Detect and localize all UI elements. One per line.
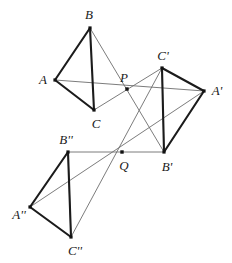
label-Cpp: C'': [68, 244, 82, 257]
point-marker-App: [28, 205, 31, 208]
edge-Cp-Bp: [162, 68, 164, 152]
label-B: B: [85, 8, 93, 21]
edge-B-C: [90, 28, 94, 110]
point-marker-A: [53, 78, 56, 81]
point-marker-Cp: [160, 66, 163, 69]
ray-Cpp-to-Cp-through-Q: [71, 68, 162, 237]
label-Q: Q: [119, 159, 128, 172]
label-P: P: [120, 71, 128, 84]
point-marker-Q: [120, 150, 123, 153]
edge-Bpp-Cpp: [68, 152, 71, 237]
edge-A-B: [55, 28, 90, 80]
label-Bp: B': [162, 160, 173, 173]
diagram-canvas: [0, 0, 232, 263]
edge-App-Cpp: [30, 207, 71, 237]
label-C: C: [92, 117, 101, 130]
edge-Cp-Ap: [162, 68, 204, 91]
label-Bpp: B'': [59, 133, 73, 146]
vertex-dot-layer: [28, 26, 205, 238]
ray-App-to-Ap-through-Q: [30, 91, 204, 207]
edge-App-Bpp: [30, 152, 68, 207]
point-marker-Cpp: [69, 235, 72, 238]
point-marker-Ap: [202, 89, 205, 92]
thick-edge-layer: [30, 28, 204, 237]
ray-A-to-Ap-through-P: [55, 80, 204, 91]
label-Cp: C': [157, 49, 168, 62]
label-App: A'': [12, 208, 26, 221]
point-marker-P: [125, 87, 128, 90]
point-marker-Bp: [162, 150, 165, 153]
geometry-diagram: BACPC'A'B'QB''A''C'': [0, 0, 232, 263]
label-Ap: A': [212, 84, 223, 97]
edge-Ap-Bp: [164, 91, 204, 152]
point-marker-C: [92, 108, 95, 111]
label-A: A: [39, 73, 47, 86]
point-marker-B: [88, 26, 91, 29]
edge-A-C: [55, 80, 94, 110]
point-marker-Bpp: [66, 150, 69, 153]
